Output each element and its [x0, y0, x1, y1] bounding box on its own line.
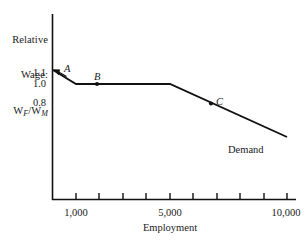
point-b-label: B — [94, 71, 100, 82]
x-tick-label-1000: 1,000 — [46, 207, 106, 218]
point-a-label: A — [64, 63, 70, 74]
demand-curve-chart: Relative Wage: WF/WM 1.1 1.0 0.8 1,000 5… — [0, 0, 307, 242]
x-axis-title: Employment — [110, 222, 230, 233]
point-c-marker — [209, 101, 213, 105]
y-tick-label-1-0: 1.0 — [16, 78, 46, 89]
point-c-label: C — [216, 96, 223, 107]
x-tick-label-10000: 10,000 — [256, 207, 307, 218]
point-b-marker — [95, 82, 99, 86]
y-axis-title-subscript-f: F — [23, 109, 28, 118]
demand-curve-line — [53, 70, 287, 137]
y-tick-label-0-8: 0.8 — [16, 97, 46, 108]
y-tick-label-1-1: 1.1 — [16, 67, 46, 78]
x-tick-label-5000: 5,000 — [140, 207, 200, 218]
y-axis-title-line1: Relative — [0, 33, 48, 46]
y-axis-title-subscript-m: M — [41, 109, 48, 118]
x-axis-ticks — [76, 193, 287, 199]
demand-curve-label: Demand — [228, 144, 264, 155]
